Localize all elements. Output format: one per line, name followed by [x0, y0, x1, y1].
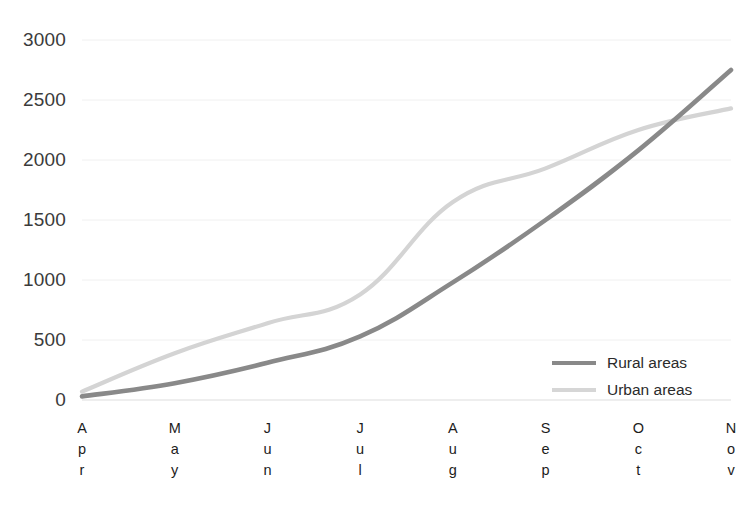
x-axis-tick-label-jun: Jun — [247, 418, 287, 481]
x-axis-tick-label-oct: Oct — [618, 418, 658, 481]
chart-legend: Rural areasUrban areas — [552, 349, 692, 403]
y-axis-tick-label: 2500 — [4, 90, 66, 109]
x-axis-tick-label-apr: Apr — [62, 418, 102, 481]
x-tick-letter: A — [62, 418, 102, 439]
x-tick-letter: N — [711, 418, 749, 439]
x-tick-letter: c — [618, 439, 658, 460]
x-tick-letter: O — [618, 418, 658, 439]
x-tick-letter: p — [526, 460, 566, 481]
x-tick-letter: e — [526, 439, 566, 460]
y-axis-tick-label: 0 — [4, 390, 66, 409]
x-tick-letter: u — [433, 439, 473, 460]
legend-label: Urban areas — [607, 381, 692, 399]
x-tick-letter: a — [155, 439, 195, 460]
x-tick-letter: r — [62, 460, 102, 481]
x-tick-letter: J — [340, 418, 380, 439]
y-axis-tick-label: 500 — [4, 330, 66, 349]
x-axis-tick-label-may: May — [155, 418, 195, 481]
x-tick-letter: v — [711, 460, 749, 481]
y-axis-tick-label: 1000 — [4, 270, 66, 289]
x-tick-letter: n — [247, 460, 287, 481]
x-axis-tick-label-jul: Jul — [340, 418, 380, 481]
x-axis-tick-label-aug: Aug — [433, 418, 473, 481]
x-tick-letter: y — [155, 460, 195, 481]
x-axis-tick-label-nov: Nov — [711, 418, 749, 481]
y-axis-tick-label: 1500 — [4, 210, 66, 229]
x-tick-letter: M — [155, 418, 195, 439]
legend-swatch-icon — [552, 361, 596, 365]
legend-item[interactable]: Urban areas — [552, 376, 692, 403]
line-chart: 300025002000150010005000 AprMayJunJulAug… — [0, 0, 749, 506]
x-tick-letter: o — [711, 439, 749, 460]
legend-swatch-icon — [552, 388, 596, 392]
y-axis-tick-label: 2000 — [4, 150, 66, 169]
x-tick-letter: l — [340, 460, 380, 481]
y-axis-tick-label: 3000 — [4, 30, 66, 49]
legend-label: Rural areas — [607, 354, 687, 372]
x-tick-letter: J — [247, 418, 287, 439]
x-tick-letter: A — [433, 418, 473, 439]
series-line-rural-areas — [82, 70, 731, 396]
x-tick-letter: u — [340, 439, 380, 460]
x-tick-letter: p — [62, 439, 102, 460]
x-tick-letter: S — [526, 418, 566, 439]
x-tick-letter: g — [433, 460, 473, 481]
x-tick-letter: t — [618, 460, 658, 481]
x-axis-tick-label-sep: Sep — [526, 418, 566, 481]
legend-item[interactable]: Rural areas — [552, 349, 692, 376]
x-tick-letter: u — [247, 439, 287, 460]
